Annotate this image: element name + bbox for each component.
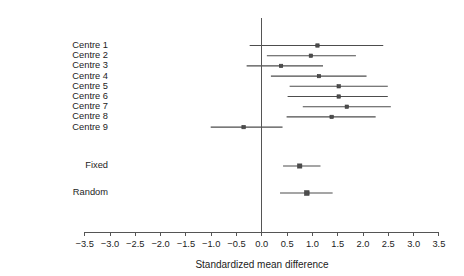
summary-random-row: Random — [73, 187, 333, 197]
study-7-label: Centre 7 — [72, 101, 108, 111]
forest-plot: Centre 1Centre 2Centre 3Centre 4Centre 5… — [0, 0, 464, 276]
study-5-row: Centre 5 — [72, 81, 387, 91]
axis-layer: −3.5−3.0−2.5−2.0−1.5−1.0−0.50.00.51.01.5… — [76, 18, 446, 249]
x-axis-tick-label: −3.0 — [101, 239, 119, 249]
x-axis-tick-label: 0.0 — [255, 239, 268, 249]
study-2-row: Centre 2 — [72, 50, 356, 60]
study-6-point-estimate — [337, 95, 340, 98]
x-axis-title: Standardized mean difference — [195, 259, 329, 270]
x-axis-tick-label: −3.5 — [76, 239, 94, 249]
study-9-row: Centre 9 — [72, 122, 282, 132]
study-8-point-estimate — [330, 115, 333, 118]
study-1-point-estimate — [316, 44, 319, 47]
study-4-row: Centre 4 — [72, 71, 366, 81]
summary-random-point-estimate — [305, 191, 310, 196]
x-axis-tick-label: −0.5 — [227, 239, 245, 249]
x-axis-tick-label: 1.0 — [306, 239, 319, 249]
study-8-row: Centre 8 — [72, 111, 375, 121]
x-axis-tick-label: 2.0 — [357, 239, 370, 249]
study-7-point-estimate — [345, 105, 348, 108]
study-7-row: Centre 7 — [72, 101, 391, 111]
x-axis-tick-label: 0.5 — [281, 239, 294, 249]
x-axis-tick-label: −2.5 — [126, 239, 144, 249]
summary-fixed-label: Fixed — [85, 160, 108, 170]
forest-plot-canvas: Centre 1Centre 2Centre 3Centre 4Centre 5… — [0, 0, 464, 276]
x-axis-tick-label: 3.5 — [432, 239, 445, 249]
study-3-row: Centre 3 — [72, 60, 323, 70]
study-9-label: Centre 9 — [72, 122, 108, 132]
summary-random-label: Random — [73, 187, 108, 197]
x-axis-tick-label: −1.5 — [177, 239, 195, 249]
study-4-label: Centre 4 — [72, 71, 108, 81]
summary-fixed-point-estimate — [298, 164, 302, 168]
study-5-label: Centre 5 — [72, 81, 108, 91]
study-9-point-estimate — [242, 125, 245, 128]
x-axis-tick-label: −1.0 — [202, 239, 220, 249]
study-rows-layer: Centre 1Centre 2Centre 3Centre 4Centre 5… — [72, 40, 391, 198]
x-axis-tick-label: 1.5 — [331, 239, 344, 249]
study-2-label: Centre 2 — [72, 50, 108, 60]
x-axis-tick-label: −2.0 — [151, 239, 169, 249]
x-axis-tick-label: 2.5 — [382, 239, 395, 249]
study-1-label: Centre 1 — [72, 40, 108, 50]
study-6-label: Centre 6 — [72, 91, 108, 101]
study-2-point-estimate — [309, 54, 312, 57]
x-axis-tick-label: 3.0 — [407, 239, 420, 249]
study-3-point-estimate — [279, 64, 282, 67]
study-1-row: Centre 1 — [72, 40, 383, 50]
study-8-label: Centre 8 — [72, 111, 108, 121]
study-6-row: Centre 6 — [72, 91, 387, 101]
summary-fixed-row: Fixed — [85, 160, 320, 170]
study-4-point-estimate — [317, 74, 320, 77]
study-3-label: Centre 3 — [72, 60, 108, 70]
study-5-point-estimate — [337, 85, 340, 88]
